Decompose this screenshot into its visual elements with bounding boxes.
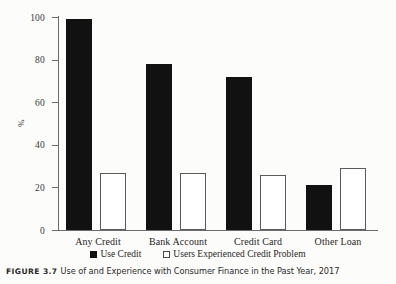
bar-group — [218, 17, 298, 230]
y-tick-label: 60 — [35, 98, 45, 108]
figure-caption: FIGURE 3.7Use of and Experience with Con… — [6, 266, 390, 276]
legend-label: Users Experienced Credit Problem — [173, 249, 305, 259]
legend-item-use-credit: Use Credit — [90, 249, 141, 259]
x-axis-label-any-credit: Any Credit — [58, 236, 138, 247]
bar-solid-credit-card — [226, 77, 252, 230]
bar-solid-other-loan — [306, 185, 332, 230]
y-tick-label: 80 — [35, 55, 45, 65]
y-tick: 0 — [52, 230, 58, 231]
bar-group — [138, 17, 218, 230]
bar-hollow-any-credit — [100, 173, 126, 231]
y-tick-label: 20 — [35, 183, 45, 193]
bar-solid-bank-account — [146, 64, 172, 230]
legend: Use CreditUsers Experienced Credit Probl… — [0, 249, 396, 259]
x-axis-line — [58, 230, 378, 231]
y-axis-title: % — [16, 119, 26, 127]
bar-group — [298, 17, 378, 230]
x-axis-label-credit-card: Credit Card — [218, 236, 298, 247]
bar-hollow-bank-account — [180, 173, 206, 231]
legend-swatch-outline-icon — [163, 251, 170, 258]
caption-label: FIGURE 3.7 — [6, 267, 58, 276]
y-tick-label: 0 — [40, 226, 45, 236]
caption-text: Use of and Experience with Consumer Fina… — [61, 266, 340, 276]
y-tick-label: 40 — [35, 140, 45, 150]
legend-item-credit-problem: Users Experienced Credit Problem — [163, 249, 305, 259]
x-axis-label-bank-account: Bank Account — [138, 236, 218, 247]
y-tick-mark — [52, 230, 58, 231]
x-axis-label-other-loan: Other Loan — [298, 236, 378, 247]
bar-group — [58, 17, 138, 230]
figure-container: % 020406080100 Any CreditBank AccountCre… — [0, 0, 396, 284]
bar-solid-any-credit — [66, 19, 92, 230]
y-tick-label: 100 — [30, 13, 45, 23]
bar-hollow-credit-card — [260, 175, 286, 230]
bar-hollow-other-loan — [340, 168, 366, 230]
plot-area: 020406080100 — [58, 17, 378, 230]
legend-swatch-filled-icon — [90, 251, 97, 258]
legend-label: Use Credit — [100, 249, 141, 259]
